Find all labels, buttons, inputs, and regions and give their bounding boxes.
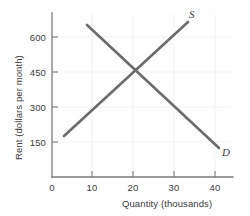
y-tick-label-450: 450 (8, 67, 46, 78)
supply-curve-line (64, 22, 188, 136)
supply-curve-label: S (189, 8, 195, 20)
axis-lines (52, 13, 233, 177)
x-axis-title: Quantity (thousands) (122, 198, 212, 209)
y-tick-label-600: 600 (8, 32, 46, 43)
x-tick-label-20: 20 (128, 182, 139, 193)
y-tick-marks (52, 37, 58, 142)
y-tick-label-300: 300 (8, 102, 46, 113)
x-tick-label-40: 40 (210, 182, 221, 193)
economics-supply-demand-chart: Rent (dollars per month) Quantity (thous… (0, 0, 250, 216)
gridlines (52, 14, 231, 177)
x-tick-label-0: 0 (49, 182, 54, 193)
x-tick-label-10: 10 (87, 182, 98, 193)
x-tick-marks (92, 171, 215, 177)
demand-curve-label: D (222, 146, 230, 158)
x-tick-label-30: 30 (169, 182, 180, 193)
y-tick-label-150: 150 (8, 137, 46, 148)
demand-curve-line (87, 25, 219, 148)
